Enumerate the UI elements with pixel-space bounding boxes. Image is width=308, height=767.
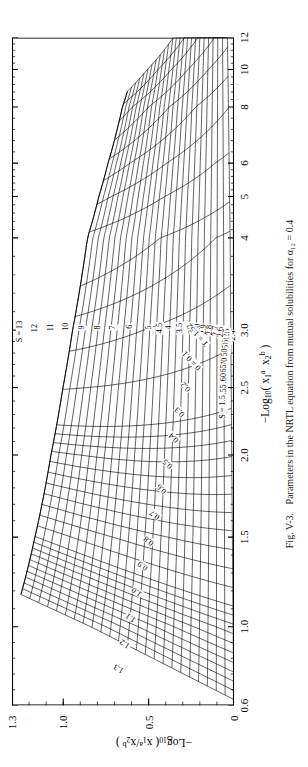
x-axis-title: −Log10( x1a x2b ) — [258, 344, 272, 423]
x-tick-label: 4 — [238, 235, 250, 241]
s-curve-label: 12 — [31, 323, 39, 333]
s-curve-label: 11 — [47, 322, 55, 332]
x-tick-label: 10 — [238, 64, 250, 75]
figure-number: Fig. V-3. — [284, 512, 295, 547]
s-curve-label: 4.5 — [156, 321, 164, 333]
x-tick-label: 5 — [238, 193, 250, 199]
rotated-figure-container: S = 13121110987654.543.53.13.02.92.82.72… — [0, 0, 308, 767]
s-curve-label: S = 13 — [16, 319, 24, 342]
x-tick-label: 3.0 — [238, 323, 250, 337]
x-tick-label: 2.5 — [238, 380, 250, 394]
x-axis-title-text: −Log10( x1a x2b ) — [259, 344, 271, 423]
x-tick-label: 8 — [238, 104, 250, 110]
y-tick-label: 0 — [228, 715, 240, 721]
y-axis-title: −Log10( x1a/x2b ) — [43, 735, 265, 749]
figure: S = 13121110987654.543.53.13.02.92.82.72… — [0, 0, 308, 767]
y-axis-title-text: −Log10( x1a/x2b ) — [116, 737, 192, 749]
x-tick-label: 0.6 — [238, 698, 250, 712]
s-curve-label: 7 — [109, 324, 117, 330]
y-tick-label: 1.0 — [57, 715, 69, 729]
nomogram-canvas: S = 13121110987654.543.53.13.02.92.82.72… — [12, 37, 234, 705]
y-tick-label: 1.3 — [6, 715, 18, 729]
x-tick-label: 1.0 — [238, 619, 250, 633]
plot-area: S = 13121110987654.543.53.13.02.92.82.72… — [12, 37, 234, 705]
s-curve-label: 9 — [78, 324, 86, 330]
x-tick-label: 12 — [238, 32, 250, 43]
s-curve-label: 10 — [62, 321, 70, 331]
s-curve-label: S = 1.5 — [219, 394, 227, 420]
x-tick-label: 1.5 — [238, 530, 250, 544]
s-curve-label: 6 — [126, 323, 134, 329]
x-tick-label: 6 — [238, 160, 250, 166]
x-tick-label: 2.0 — [238, 448, 250, 462]
s-curve-label: 8 — [94, 324, 102, 330]
s-curve-label: 5 — [144, 324, 152, 330]
figure-page: S = 13121110987654.543.53.13.02.92.82.72… — [0, 0, 308, 767]
figure-caption-text: Parameters in the NRTL equation from mut… — [284, 219, 295, 504]
nomogram-svg — [12, 37, 234, 705]
figure-caption: Fig. V-3. Parameters in the NRTL equatio… — [284, 0, 295, 767]
y-tick-label: 0.5 — [143, 715, 155, 729]
s-curve-label: 4 — [165, 324, 173, 330]
s-curve-label: 3.5 — [176, 321, 184, 333]
